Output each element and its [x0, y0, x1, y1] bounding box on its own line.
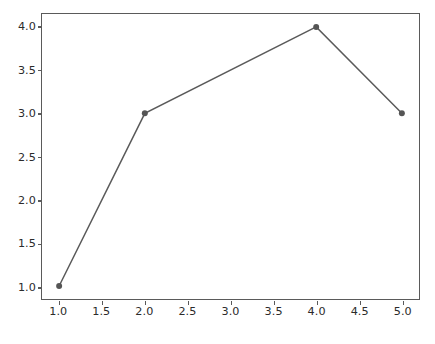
figure-canvas: 1.01.52.02.53.03.54.0 1.01.52.02.53.03.5…	[0, 0, 435, 344]
x-tick-label: 4.0	[308, 305, 326, 318]
series-line	[59, 27, 402, 286]
y-tick-mark	[38, 70, 42, 71]
y-tick-label: 1.0	[18, 280, 36, 293]
x-tick-label: 3.5	[265, 305, 283, 318]
y-tick-label: 4.0	[18, 20, 36, 33]
x-tick-label: 5.0	[394, 305, 412, 318]
y-tick-label: 2.0	[18, 193, 36, 206]
data-point-marker	[313, 24, 319, 30]
data-point-marker	[56, 283, 62, 289]
x-axis-tick-labels: 1.01.52.02.53.03.54.04.55.0	[0, 305, 435, 325]
series-line-chart	[42, 14, 419, 299]
x-tick-label: 2.0	[135, 305, 153, 318]
y-tick-mark	[38, 244, 42, 245]
x-tick-label: 1.5	[92, 305, 110, 318]
y-tick-label: 2.5	[18, 150, 36, 163]
y-tick-label: 1.5	[18, 237, 36, 250]
x-tick-label: 4.5	[351, 305, 369, 318]
x-tick-label: 1.0	[49, 305, 67, 318]
plot-area	[41, 13, 420, 300]
y-tick-mark	[38, 287, 42, 288]
y-tick-mark	[38, 200, 42, 201]
data-point-marker	[399, 110, 405, 116]
y-tick-mark	[38, 157, 42, 158]
y-tick-label: 3.5	[18, 63, 36, 76]
y-axis-tick-labels: 1.01.52.02.53.03.54.0	[0, 0, 36, 344]
x-tick-label: 3.0	[221, 305, 239, 318]
x-tick-label: 2.5	[178, 305, 196, 318]
y-tick-mark	[38, 26, 42, 27]
y-tick-mark	[38, 113, 42, 114]
data-point-marker	[142, 110, 148, 116]
y-tick-label: 3.0	[18, 107, 36, 120]
